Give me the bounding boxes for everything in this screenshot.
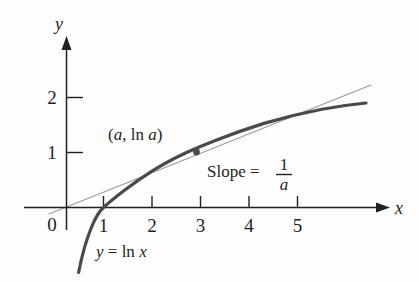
slope-label-text: Slope = [207,162,260,181]
x-axis-label: x [394,198,403,218]
x-tick-marks [104,196,298,207]
point-label-ln: ln [131,125,148,144]
x-axis-arrowhead [376,203,390,213]
tangent-point-dot [193,149,200,156]
tangent-line [49,85,371,214]
curve-label-x: x [138,242,147,261]
y-tick-label-1: 1 [47,142,57,163]
x-tick-label-1: 1 [99,215,109,236]
curve-label-equals: = [104,242,122,261]
x-tick-label-3: 3 [196,215,206,236]
curve-label-y: y [94,242,104,261]
y-tick-label-2: 2 [47,87,57,108]
point-label-comma: , [122,125,131,144]
y-axis-arrowhead [62,36,72,50]
point-label-a-second: a [148,125,157,144]
x-tick-label-5: 5 [293,215,303,236]
y-tick-marks [67,98,83,153]
x-tick-label-4: 4 [244,215,254,236]
figure-container: y x 0 1 2 3 4 5 1 2 (a, ln a) Slope = 1 … [0,0,419,282]
curve-label-ln: ln [122,242,139,261]
tangent-point-label: (a, ln a) [108,125,162,144]
curve-label: y = ln x [94,242,147,261]
y-axis-label: y [53,14,63,34]
origin-label: 0 [47,214,57,235]
point-label-a-first: a [114,125,123,144]
slope-numerator: 1 [280,155,289,174]
point-label-paren-close: ) [157,125,163,144]
x-tick-label-2: 2 [147,215,157,236]
graph-canvas: y x 0 1 2 3 4 5 1 2 (a, ln a) Slope = 1 … [0,0,419,282]
slope-denominator: a [280,175,289,194]
